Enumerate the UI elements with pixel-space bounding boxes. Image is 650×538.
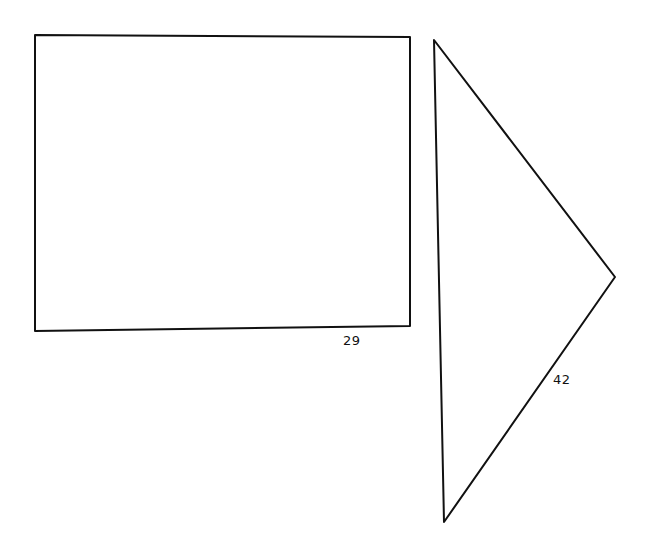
triangle-shape bbox=[434, 40, 615, 522]
rectangle-shape bbox=[35, 35, 410, 331]
rectangle-side-label: 29 bbox=[343, 334, 361, 347]
diagram-canvas bbox=[0, 0, 650, 538]
triangle-side-label: 42 bbox=[553, 373, 571, 386]
